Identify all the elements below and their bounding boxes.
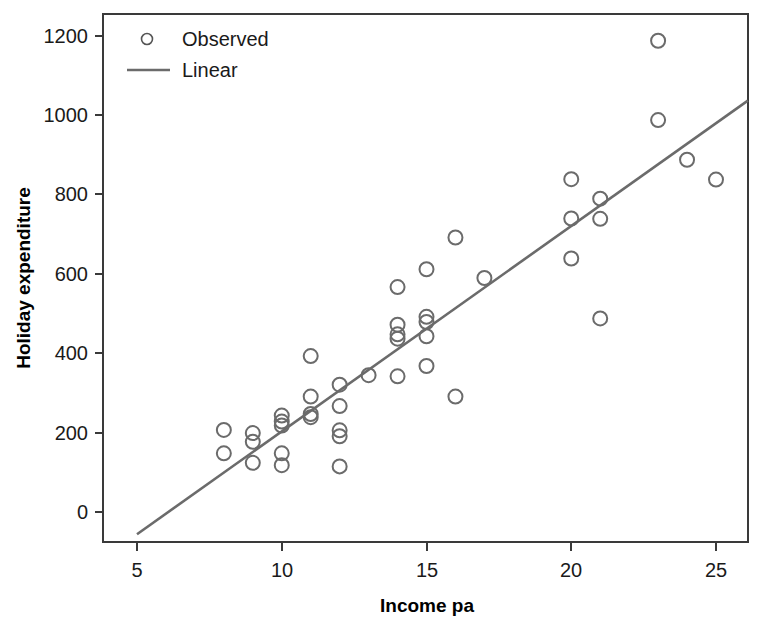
data-point — [448, 390, 462, 404]
x-tick-label-15: 15 — [416, 559, 438, 581]
data-point — [709, 173, 723, 187]
legend-label-observed: Observed — [182, 28, 269, 50]
x-tick-label-25: 25 — [705, 559, 727, 581]
data-point — [593, 311, 607, 325]
x-tick-label-10: 10 — [271, 559, 293, 581]
x-axis-tick-labels: 5 10 15 20 25 — [131, 559, 727, 581]
regression-line — [137, 101, 748, 535]
y-tick-label-1200: 1200 — [44, 25, 89, 47]
linear-fit-line — [137, 101, 748, 535]
data-point — [593, 192, 607, 206]
data-point — [593, 212, 607, 226]
data-point — [217, 446, 231, 460]
legend-label-linear: Linear — [182, 59, 238, 81]
chart-figure: 1200 1000 800 600 400 200 0 5 10 15 20 2… — [0, 0, 762, 629]
data-point — [651, 34, 665, 48]
data-point — [246, 456, 260, 470]
y-tick-label-0: 0 — [77, 501, 88, 523]
chart-legend: Observed Linear — [127, 28, 269, 81]
data-point — [420, 359, 434, 373]
y-tick-label-1000: 1000 — [44, 104, 89, 126]
data-point — [391, 280, 405, 294]
data-point — [246, 435, 260, 449]
data-point — [217, 423, 231, 437]
y-axis-tick-labels: 1200 1000 800 600 400 200 0 — [44, 25, 89, 523]
y-axis-title: Holiday expenditure — [13, 187, 34, 369]
data-point — [564, 172, 578, 186]
legend-observed-marker-icon — [142, 34, 153, 45]
observed-data-points — [217, 34, 723, 474]
data-point — [564, 252, 578, 266]
scatter-plot: 1200 1000 800 600 400 200 0 5 10 15 20 2… — [0, 0, 762, 629]
data-point — [564, 211, 578, 225]
data-point — [333, 459, 347, 473]
y-tick-label-200: 200 — [55, 422, 88, 444]
y-axis-ticks — [95, 36, 103, 512]
data-point — [448, 231, 462, 245]
data-point — [420, 262, 434, 276]
data-point — [680, 153, 694, 167]
y-tick-label-400: 400 — [55, 342, 88, 364]
y-tick-label-800: 800 — [55, 183, 88, 205]
data-point — [477, 271, 491, 285]
y-tick-label-600: 600 — [55, 263, 88, 285]
plot-frame — [103, 14, 748, 542]
x-axis-ticks — [137, 542, 716, 551]
data-point — [304, 390, 318, 404]
x-tick-label-20: 20 — [560, 559, 582, 581]
x-tick-label-5: 5 — [131, 559, 142, 581]
data-point — [651, 113, 665, 127]
data-point — [420, 329, 434, 343]
data-point — [333, 399, 347, 413]
x-axis-title: Income pa — [380, 595, 474, 616]
data-point — [304, 349, 318, 363]
data-point — [391, 369, 405, 383]
